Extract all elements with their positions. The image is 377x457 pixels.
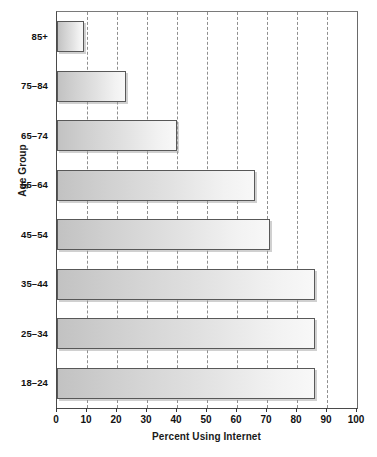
x-tick-label-20: 20 xyxy=(110,414,121,425)
y-tick-label-35–44: 35–44 xyxy=(21,278,48,289)
bars-group xyxy=(57,12,357,408)
y-tick-label-25–34: 25–34 xyxy=(21,327,48,338)
y-axis-tick-labels: 85+75–8465–7455–6445–5435–4425–3418–24 xyxy=(0,11,52,407)
bar-45–54 xyxy=(57,219,270,250)
x-tick-label-80: 80 xyxy=(290,414,301,425)
bar-35–44 xyxy=(57,269,315,300)
bar-55–64 xyxy=(57,170,255,201)
plot-area xyxy=(56,11,358,409)
x-tick-mark-40 xyxy=(176,408,177,412)
x-tick-mark-50 xyxy=(206,408,207,412)
x-tick-mark-0 xyxy=(56,408,57,412)
x-tick-label-100: 100 xyxy=(348,414,365,425)
x-tick-mark-30 xyxy=(146,408,147,412)
bar-65–74 xyxy=(57,120,177,151)
x-axis-title: Percent Using Internet xyxy=(56,431,357,442)
bar-85+ xyxy=(57,21,84,52)
y-tick-label-85+: 85+ xyxy=(32,30,48,41)
x-tick-mark-10 xyxy=(86,408,87,412)
y-tick-label-45–54: 45–54 xyxy=(21,228,48,239)
x-tick-label-50: 50 xyxy=(200,414,211,425)
y-tick-label-75–84: 75–84 xyxy=(21,80,48,91)
x-tick-label-0: 0 xyxy=(53,414,59,425)
y-tick-label-18–24: 18–24 xyxy=(21,377,48,388)
bar-25–34 xyxy=(57,318,315,349)
x-tick-label-10: 10 xyxy=(80,414,91,425)
x-tick-label-60: 60 xyxy=(230,414,241,425)
x-tick-label-90: 90 xyxy=(320,414,331,425)
x-tick-label-70: 70 xyxy=(260,414,271,425)
x-tick-label-30: 30 xyxy=(140,414,151,425)
x-tick-mark-100 xyxy=(356,408,357,412)
x-tick-label-40: 40 xyxy=(170,414,181,425)
x-tick-mark-90 xyxy=(326,408,327,412)
bar-chart: Age Group 85+75–8465–7455–6445–5435–4425… xyxy=(0,0,377,457)
x-tick-mark-70 xyxy=(266,408,267,412)
bar-75–84 xyxy=(57,71,126,102)
x-tick-mark-20 xyxy=(116,408,117,412)
y-tick-label-65–74: 65–74 xyxy=(21,129,48,140)
x-axis: 0102030405060708090100 xyxy=(56,408,357,432)
bar-18–24 xyxy=(57,368,315,399)
x-tick-mark-60 xyxy=(236,408,237,412)
x-tick-mark-80 xyxy=(296,408,297,412)
y-tick-label-55–64: 55–64 xyxy=(21,179,48,190)
